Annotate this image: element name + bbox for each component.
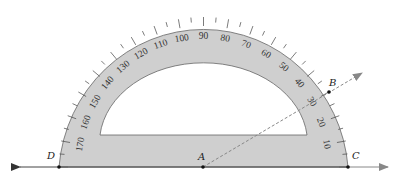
tick-mark — [121, 44, 124, 48]
tick-mark — [240, 22, 241, 27]
label-B: B — [328, 77, 336, 88]
tick-mark — [142, 31, 144, 36]
tick-mark — [166, 22, 167, 27]
tick-mark — [227, 19, 229, 28]
point-C — [346, 165, 350, 169]
tick-mark — [73, 104, 78, 106]
tick-mark — [318, 81, 322, 84]
point-D — [57, 165, 61, 169]
tick-mark — [101, 61, 105, 65]
label-C: C — [352, 150, 360, 161]
tick-mark — [291, 52, 297, 59]
scale-label: 10 — [321, 139, 333, 150]
scale-label: 90 — [199, 31, 209, 41]
tick-mark — [85, 81, 89, 84]
label-A: A — [197, 151, 205, 162]
tick-mark — [178, 19, 180, 28]
tick-mark — [93, 71, 100, 77]
point-A — [201, 165, 205, 169]
tick-mark — [154, 26, 157, 34]
tick-mark — [284, 44, 287, 48]
tick-mark — [330, 104, 335, 106]
tick-mark — [131, 37, 136, 45]
point-B — [327, 90, 331, 94]
tick-mark — [111, 52, 117, 59]
protractor-diagram: 1020304050607080901001101201301401501601… — [0, 0, 407, 182]
scale-label: 80 — [220, 32, 231, 44]
tick-mark — [262, 31, 264, 36]
tick-mark — [302, 61, 306, 65]
diagram-canvas: 1020304050607080901001101201301401501601… — [0, 0, 407, 182]
tick-mark — [307, 71, 314, 77]
label-D: D — [46, 150, 55, 161]
tick-mark — [271, 37, 276, 45]
tick-mark — [250, 26, 253, 34]
